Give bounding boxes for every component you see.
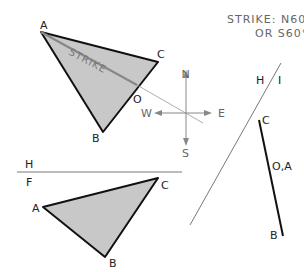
top-label-o: O	[133, 93, 142, 106]
edge-label-b: B	[270, 229, 278, 242]
top-label-a: A	[40, 19, 48, 32]
fold-hi-i-label: I	[278, 74, 281, 87]
south-arrowhead-icon	[183, 138, 189, 146]
fold-line-h-i: H I	[190, 63, 281, 225]
front-view-triangle	[43, 178, 158, 257]
compass-w: W	[141, 107, 153, 120]
fold-hf-h-label: H	[25, 158, 33, 171]
title-line1: STRIKE: N60°W	[227, 13, 304, 26]
fold-line-h-f: H F	[17, 158, 182, 189]
west-arrowhead-icon	[154, 110, 162, 116]
fold-hf-f-label: F	[26, 176, 32, 189]
title-line2: OR S60°E	[255, 27, 304, 40]
edge-label-oa: O,A	[272, 160, 292, 173]
compass-n: N	[181, 68, 190, 81]
front-label-c: C	[161, 179, 169, 192]
edge-view-line	[259, 120, 283, 236]
edge-view: C O,A B	[259, 114, 292, 242]
top-label-c: C	[157, 48, 165, 61]
top-view-plane: STRIKE A C B O	[40, 19, 203, 145]
front-label-a: A	[32, 202, 40, 215]
descriptive-geometry-diagram: STRIKE A C B O N S W E STRIKE: N60°W OR …	[0, 0, 304, 272]
fold-hi-h-label: H	[256, 74, 264, 87]
compass-e: E	[218, 107, 226, 120]
fold-line-hi	[190, 63, 281, 225]
compass-s: S	[182, 147, 190, 160]
top-label-b: B	[92, 132, 100, 145]
front-view-plane: A C B	[32, 178, 169, 270]
front-label-b: B	[109, 257, 117, 270]
east-arrowhead-icon	[204, 110, 212, 116]
edge-label-c: C	[262, 114, 270, 127]
compass-rose: N S W E	[141, 68, 226, 160]
